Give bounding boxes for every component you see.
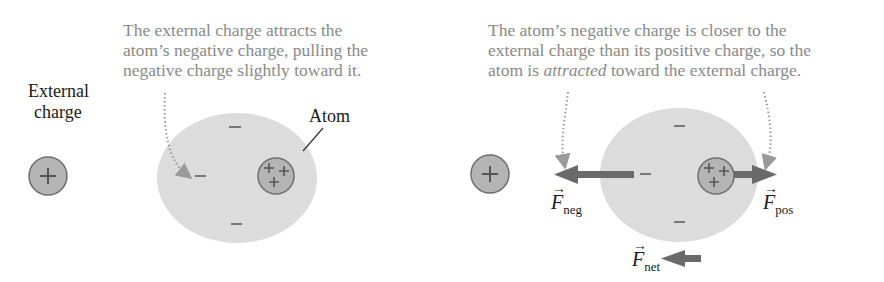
right-pointer-neg-dotted-arrow <box>563 92 568 162</box>
right-pointer-pos-dotted-arrow <box>764 92 771 163</box>
left-caption: The external charge attracts the atom’s … <box>123 20 368 80</box>
force-arrow-net <box>661 250 701 267</box>
caption-text: toward the external charge. <box>607 60 802 80</box>
force-label-pos: →Fpos <box>763 192 793 220</box>
force-label-neg: →Fneg <box>551 192 582 220</box>
right-caption: The atom’s negative charge is closer to … <box>488 20 811 80</box>
left-atom <box>157 113 323 243</box>
vector-arrow-icon: → <box>552 179 566 199</box>
left-caption-line: atom’s negative charge, pulling the <box>123 40 368 60</box>
caption-text: atom is <box>488 60 543 80</box>
force-subscript: pos <box>775 202 793 217</box>
right-caption-line: The atom’s negative charge is closer to … <box>488 20 811 40</box>
right-caption-line: atom is attracted toward the external ch… <box>488 60 811 80</box>
vector-arrow-icon: → <box>764 179 778 199</box>
external-charge-label: External charge <box>28 81 89 123</box>
right-caption-line: external charge than its positive charge… <box>488 40 811 60</box>
force-label-net: →Fnet <box>632 249 660 277</box>
atom-leader-line <box>303 128 323 151</box>
left-external-charge <box>29 157 67 195</box>
atom-label: Atom <box>309 106 350 127</box>
caption-emphasis: attracted <box>543 60 606 80</box>
external-charge-label-line: charge <box>28 102 89 123</box>
force-subscript: net <box>644 259 660 274</box>
force-subscript: neg <box>563 202 582 217</box>
right-external-charge <box>471 155 509 193</box>
vector-arrow-icon: → <box>633 236 647 256</box>
left-caption-line: negative charge slightly toward it. <box>123 60 368 80</box>
nucleus <box>698 158 734 194</box>
left-caption-line: The external charge attracts the <box>123 20 368 40</box>
external-charge-label-line: External <box>28 81 89 102</box>
nucleus <box>258 158 294 194</box>
